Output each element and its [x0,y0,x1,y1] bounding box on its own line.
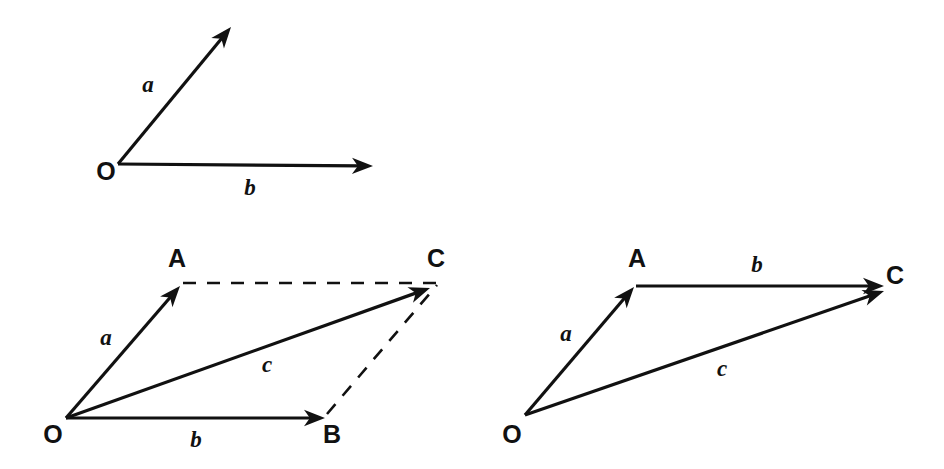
point-label-a: A [168,244,186,272]
vector-a-label: a [142,72,154,97]
point-label-a: A [628,244,646,272]
parallelogram-rule: abcOABC [43,244,445,452]
triangle-rule: abcOAC [502,244,904,448]
vector-diagram-figure: abOabcOABCabcOAC [0,0,944,469]
vector-b-label: b [190,427,202,452]
two-vectors-from-common-origin: abO [96,27,373,200]
vector-b: b [118,158,373,200]
point-label-o: O [502,420,521,448]
vector-b: b [636,252,884,294]
vector-a-label: a [560,321,572,346]
vector-a-label: a [100,325,112,350]
vector-a-shaft [118,36,224,164]
point-label-o: O [43,420,62,448]
vector-b: b [66,410,325,452]
vector-a: a [118,27,231,164]
vector-b-label: b [751,252,763,277]
vector-diagram-canvas: abOabcOABCabcOAC [0,0,944,469]
point-label-c: C [886,261,904,289]
vector-c-resultant-label: c [262,352,272,377]
point-label-o: O [96,157,115,185]
vector-c-resultant-label: c [717,356,727,381]
vector-b-label: b [244,175,256,200]
vector-b-shaft [118,164,361,166]
point-label-c: C [427,244,445,272]
point-label-b: B [323,420,341,448]
